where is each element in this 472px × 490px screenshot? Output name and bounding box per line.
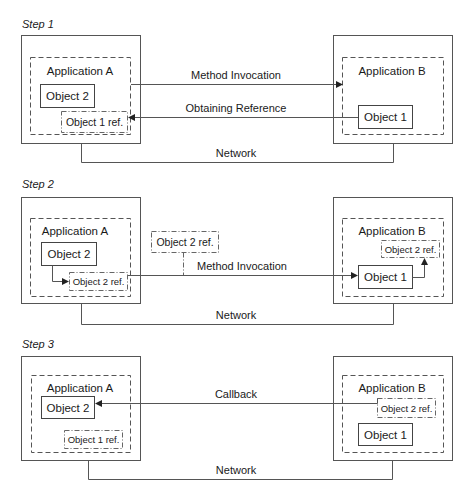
- step-2: Step 2 Application A Object 2 Object 2 r…: [22, 178, 453, 325]
- object-1-label: Object 1: [364, 111, 407, 123]
- callback-label: Callback: [215, 388, 258, 400]
- object-2-ref-label: Object 2 ref.: [73, 276, 125, 287]
- application-b-label: Application B: [358, 225, 425, 237]
- step-3-host-a: Application A Object 2 Object 1 ref.: [22, 357, 141, 461]
- object-2-ref-label: Object 2 ref.: [381, 403, 433, 414]
- step-2-title: Step 2: [22, 178, 54, 190]
- object-1-ref-label: Object 1 ref.: [68, 434, 120, 445]
- step-2-host-a: Application A Object 2 Object 2 ref.: [22, 198, 141, 304]
- obtaining-reference-label: Obtaining Reference: [186, 102, 287, 114]
- step-2-host-b: Application B Object 2 ref. Object 1: [334, 198, 453, 304]
- application-a-label: Application A: [47, 382, 114, 394]
- step-1-host-b: Application B Object 1: [334, 36, 453, 144]
- object-1-ref-label: Object 1 ref.: [66, 116, 123, 128]
- network-label: Network: [216, 147, 257, 159]
- object-1-label: Object 1: [364, 429, 407, 441]
- object-2-ref-label: Object 2 ref.: [385, 244, 437, 255]
- application-a-label: Application A: [47, 65, 114, 77]
- object-2-label: Object 2: [46, 90, 89, 102]
- method-invocation-label: Method Invocation: [197, 260, 287, 272]
- step-3: Step 3 Application A Object 2 Object 1 r…: [22, 338, 453, 480]
- step-1-host-a: Application A Object 2 Object 1 ref.: [22, 36, 141, 144]
- network-label: Network: [216, 309, 257, 321]
- application-a-label: Application A: [42, 225, 109, 237]
- application-b-label: Application B: [358, 382, 425, 394]
- step-1-title: Step 1: [22, 18, 54, 30]
- object-2-ref-parameter-label: Object 2 ref.: [156, 236, 213, 248]
- step-3-host-b: Application B Object 2 ref. Object 1: [334, 357, 453, 461]
- step-1: Step 1 Application A Object 2 Object 1 r…: [22, 18, 453, 163]
- application-b-label: Application B: [358, 65, 425, 77]
- object-2-label: Object 2: [48, 248, 91, 260]
- method-invocation-label: Method Invocation: [191, 69, 281, 81]
- object-2-label: Object 2: [47, 402, 90, 414]
- remote-reference-diagram: Step 1 Application A Object 2 Object 1 r…: [0, 0, 472, 490]
- step-3-title: Step 3: [22, 338, 55, 350]
- object-1-label: Object 1: [364, 271, 407, 283]
- network-label: Network: [216, 464, 257, 476]
